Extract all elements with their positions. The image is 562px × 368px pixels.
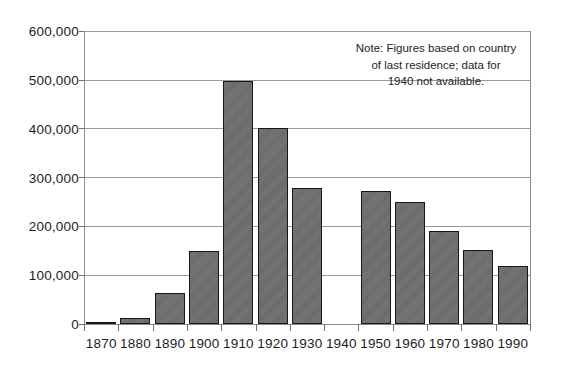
x-tick-label-1940: 1940 xyxy=(326,336,357,351)
bar-1990[interactable] xyxy=(498,266,528,324)
x-tick-label-1950: 1950 xyxy=(360,336,391,351)
x-tick-mark xyxy=(84,324,85,331)
bar-1930[interactable] xyxy=(292,188,322,324)
y-tick-label: 500,000 xyxy=(7,73,79,88)
x-tick-mark xyxy=(461,324,462,331)
bar-chart-figure: 600,000 500,000 400,000 300,000 200,000 … xyxy=(0,0,562,368)
x-axis-ticks xyxy=(84,324,530,336)
y-tick-label: 400,000 xyxy=(7,122,79,137)
bar-1980[interactable] xyxy=(463,250,493,324)
bar-slot xyxy=(221,31,255,324)
bar-1890[interactable] xyxy=(155,293,185,324)
bar-1910[interactable] xyxy=(223,81,253,324)
x-axis-labels: 1870 1880 1890 1900 1910 1920 1930 1940 … xyxy=(84,336,530,358)
bar-1900[interactable] xyxy=(189,251,219,324)
x-tick-mark xyxy=(187,324,188,331)
bar-slot xyxy=(256,31,290,324)
x-tick-label-1900: 1900 xyxy=(189,336,220,351)
note-line-3: 1940 not available. xyxy=(336,73,536,90)
x-tick-mark xyxy=(153,324,154,331)
y-tick-label: 200,000 xyxy=(7,219,79,234)
x-tick-mark xyxy=(324,324,325,331)
x-tick-label-1980: 1980 xyxy=(463,336,494,351)
x-tick-label-1930: 1930 xyxy=(292,336,323,351)
note-line-2: of last residence; data for xyxy=(336,57,536,74)
x-tick-label-1910: 1910 xyxy=(223,336,254,351)
y-tick-label: 100,000 xyxy=(7,268,79,283)
x-tick-mark xyxy=(427,324,428,331)
x-tick-mark xyxy=(221,324,222,331)
y-tick-label: 0 xyxy=(7,317,79,332)
x-tick-label-1870: 1870 xyxy=(86,336,117,351)
chart-note-annotation: Note: Figures based on country of last r… xyxy=(336,40,536,90)
y-tick-label: 300,000 xyxy=(7,171,79,186)
x-tick-mark xyxy=(393,324,394,331)
x-tick-label-1990: 1990 xyxy=(497,336,528,351)
bar-1920[interactable] xyxy=(258,128,288,324)
x-tick-mark xyxy=(530,324,531,331)
bar-slot xyxy=(290,31,324,324)
x-tick-label-1970: 1970 xyxy=(429,336,460,351)
x-tick-mark xyxy=(256,324,257,331)
x-tick-label-1920: 1920 xyxy=(257,336,288,351)
x-tick-label-1890: 1890 xyxy=(154,336,185,351)
bar-slot xyxy=(187,31,221,324)
x-tick-mark xyxy=(496,324,497,331)
x-tick-label-1960: 1960 xyxy=(394,336,425,351)
bar-slot xyxy=(153,31,187,324)
y-tick-label: 600,000 xyxy=(7,24,79,39)
bar-1950[interactable] xyxy=(361,191,391,324)
bar-1960[interactable] xyxy=(395,202,425,324)
note-line-1: Note: Figures based on country xyxy=(336,40,536,57)
bar-slot xyxy=(84,31,118,324)
x-tick-mark xyxy=(118,324,119,331)
x-tick-mark xyxy=(290,324,291,331)
x-tick-mark xyxy=(358,324,359,331)
bar-slot xyxy=(118,31,152,324)
y-axis: 600,000 500,000 400,000 300,000 200,000 … xyxy=(0,0,79,368)
x-tick-label-1880: 1880 xyxy=(120,336,151,351)
bar-1970[interactable] xyxy=(429,231,459,324)
